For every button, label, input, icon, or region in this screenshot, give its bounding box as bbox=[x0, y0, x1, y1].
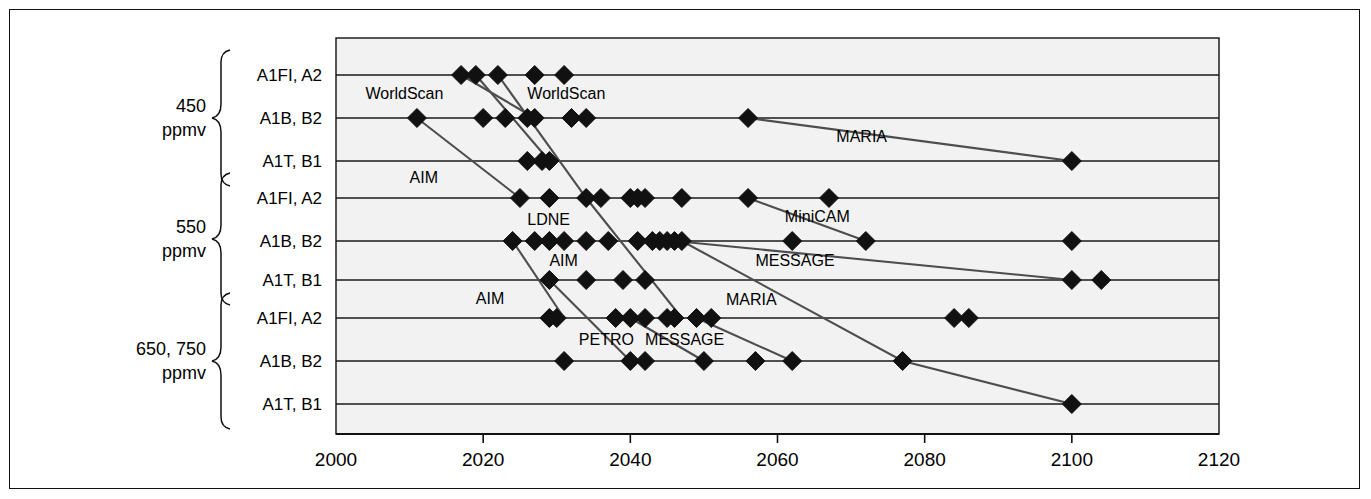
annotation-aim-6: AIM bbox=[549, 252, 577, 269]
row-label-r0: A1FI, A2 bbox=[257, 66, 322, 85]
annotation-worldscan-1: WorldScan bbox=[527, 85, 605, 102]
annotation-maria-9: MARIA bbox=[726, 291, 777, 308]
group-label-2-line2: ppmv bbox=[162, 363, 206, 383]
annotation-minicam-4: MiniCAM bbox=[785, 208, 850, 225]
x-tick-label-2120: 2120 bbox=[1198, 449, 1240, 470]
plot-area bbox=[336, 38, 1219, 434]
group-label-0-line2: ppmv bbox=[162, 120, 206, 140]
row-label-r1: A1B, B2 bbox=[260, 109, 322, 128]
group-brace-1 bbox=[212, 173, 230, 305]
chart-page: 2000202020402060208021002120A1FI, A2A1B,… bbox=[0, 0, 1371, 499]
x-axis: 2000202020402060208021002120 bbox=[315, 434, 1240, 470]
annotation-petro-10: PETRO bbox=[579, 331, 634, 348]
annotation-message-7: MESSAGE bbox=[755, 252, 834, 269]
row-label-r3: A1FI, A2 bbox=[257, 189, 322, 208]
annotation-worldscan-0: WorldScan bbox=[365, 85, 443, 102]
row-label-r4: A1B, B2 bbox=[260, 232, 322, 251]
chart-stage: 2000202020402060208021002120A1FI, A2A1B,… bbox=[0, 0, 1371, 499]
annotation-aim-8: AIM bbox=[476, 290, 504, 307]
group-brace-0 bbox=[212, 50, 230, 186]
row-labels: A1FI, A2A1B, B2A1T, B1A1FI, A2A1B, B2A1T… bbox=[257, 66, 322, 414]
group-label-1-line2: ppmv bbox=[162, 241, 206, 261]
annotation-aim-3: AIM bbox=[410, 169, 438, 186]
annotation-maria-2: MARIA bbox=[836, 128, 887, 145]
group-brace-2 bbox=[212, 293, 230, 429]
x-tick-label-2060: 2060 bbox=[756, 449, 798, 470]
group-label-0-line1: 450 bbox=[176, 96, 206, 116]
row-label-r5: A1T, B1 bbox=[262, 271, 322, 290]
row-label-r6: A1FI, A2 bbox=[257, 309, 322, 328]
annotation-ldne-5: LDNE bbox=[527, 211, 570, 228]
row-label-r8: A1T, B1 bbox=[262, 395, 322, 414]
row-label-r7: A1B, B2 bbox=[260, 352, 322, 371]
group-label-2-line1: 650, 750 bbox=[136, 339, 206, 359]
x-tick-label-2040: 2040 bbox=[609, 449, 651, 470]
x-tick-label-2000: 2000 bbox=[315, 449, 357, 470]
x-tick-label-2020: 2020 bbox=[462, 449, 504, 470]
annotation-message-11: MESSAGE bbox=[645, 331, 724, 348]
x-tick-label-2100: 2100 bbox=[1051, 449, 1093, 470]
scenario-timeline-chart: 2000202020402060208021002120A1FI, A2A1B,… bbox=[0, 0, 1371, 499]
group-braces: 450ppmv550ppmv650, 750ppmv bbox=[136, 50, 230, 429]
group-label-1-line1: 550 bbox=[176, 217, 206, 237]
row-label-r2: A1T, B1 bbox=[262, 152, 322, 171]
x-tick-label-2080: 2080 bbox=[904, 449, 946, 470]
